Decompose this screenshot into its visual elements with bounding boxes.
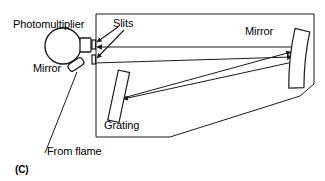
ray-from-flame	[45, 72, 77, 153]
label-grating: Grating	[104, 119, 139, 131]
label-slits: Slits	[113, 17, 133, 29]
label-from-flame: From flame	[47, 145, 102, 157]
entrance-slit	[92, 55, 96, 64]
label-mirror-small: Mirror	[33, 62, 61, 74]
photomultiplier-window	[80, 38, 91, 52]
exit-slit	[92, 40, 96, 49]
label-mirror-large: Mirror	[245, 25, 273, 37]
panel-label: (C)	[15, 164, 29, 176]
photomultiplier-circle	[45, 28, 81, 64]
label-photomultiplier: Photomultiplier	[13, 18, 84, 30]
figure-root: Photomultiplier Slits Mirror Mirror Grat…	[0, 0, 325, 181]
